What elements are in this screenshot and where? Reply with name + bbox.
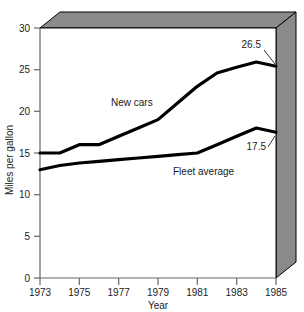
endpoint-label-fleet-average: 17.5 xyxy=(247,141,267,152)
y-tick-label: 5 xyxy=(24,231,30,242)
y-tick-label: 10 xyxy=(19,189,31,200)
x-axis-tick-labels: 1973 1975 1977 1979 1981 1983 1985 xyxy=(29,287,288,298)
x-axis-ticks xyxy=(40,278,276,285)
x-tick-label: 1977 xyxy=(108,287,131,298)
chart-figure: 0 5 10 15 20 25 30 1973 1975 1977 1979 1… xyxy=(0,0,304,312)
x-tick-label: 1973 xyxy=(29,287,52,298)
y-axis-title: Miles per gallon xyxy=(4,125,15,195)
x-tick-label: 1981 xyxy=(186,287,209,298)
chart-3d-right-panel xyxy=(276,12,296,278)
x-tick-label: 1985 xyxy=(265,287,288,298)
chart-3d-top-panel xyxy=(40,12,296,28)
y-tick-label: 0 xyxy=(24,273,30,284)
y-tick-label: 30 xyxy=(19,23,31,34)
series-label-fleet-average: Fleet average xyxy=(173,166,235,177)
chart-canvas: 0 5 10 15 20 25 30 1973 1975 1977 1979 1… xyxy=(0,0,304,312)
y-tick-label: 15 xyxy=(19,148,31,159)
y-tick-label: 20 xyxy=(19,106,31,117)
x-tick-label: 1979 xyxy=(147,287,170,298)
series-label-new-cars: New cars xyxy=(111,97,153,108)
y-axis-tick-labels: 0 5 10 15 20 25 30 xyxy=(19,23,31,284)
x-tick-label: 1983 xyxy=(226,287,249,298)
x-tick-label: 1975 xyxy=(68,287,91,298)
endpoint-label-new-cars: 26.5 xyxy=(242,39,262,50)
x-axis-title: Year xyxy=(148,300,169,311)
y-tick-label: 25 xyxy=(19,64,31,75)
